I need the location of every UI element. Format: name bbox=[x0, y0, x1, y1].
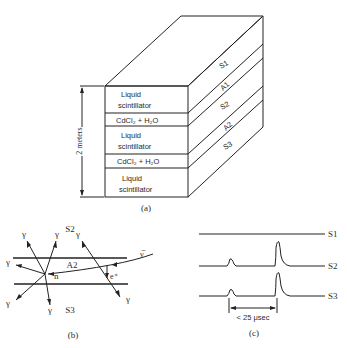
gamma-6: γ bbox=[47, 305, 52, 315]
layer-1-line-1: Liquid bbox=[121, 90, 141, 99]
gamma-1: γ bbox=[21, 229, 26, 239]
gamma-5: γ bbox=[5, 298, 10, 308]
side-label-s3: S3 bbox=[222, 139, 234, 151]
caption-a: (a) bbox=[141, 203, 151, 213]
layer-1-line-2: scintillator bbox=[118, 101, 152, 110]
label-a2: A2 bbox=[67, 260, 78, 270]
label-s2: S2 bbox=[65, 224, 75, 234]
trace-s2 bbox=[199, 242, 325, 266]
side-label-s1: S1 bbox=[218, 58, 230, 70]
trace-label-s2: S2 bbox=[328, 261, 338, 271]
trace-label-s3: S3 bbox=[328, 291, 338, 301]
layer-3-line-2: scintillator bbox=[118, 142, 152, 151]
trace-label-s1: S1 bbox=[328, 229, 338, 239]
label-positron: e⁺ bbox=[110, 272, 118, 281]
top-face bbox=[105, 16, 263, 86]
gamma-2: γ bbox=[54, 229, 59, 239]
antineutrino-track bbox=[48, 254, 153, 274]
label-antineutrino: ν̅ bbox=[140, 250, 147, 259]
layer-5-line-1: Liquid bbox=[122, 174, 142, 183]
interaction-diagram: S2 A2 S3 n e⁺ ν̅ γ γ γ γ γ γ γ bbox=[5, 224, 153, 315]
height-dimension: 2 meters bbox=[75, 86, 104, 197]
layer-2-label: CdCl₂ + H₂O bbox=[116, 116, 158, 125]
gamma-3: γ bbox=[75, 229, 80, 239]
gamma-7: γ bbox=[125, 294, 130, 304]
gamma-4: γ bbox=[5, 257, 10, 267]
layer-3-line-1: Liquid bbox=[121, 131, 141, 140]
height-label: 2 meters bbox=[75, 127, 84, 154]
caption-b: (b) bbox=[68, 330, 79, 340]
layer-4-label: CdCl₂ + H₂O bbox=[117, 157, 159, 166]
label-n: n bbox=[54, 271, 59, 281]
interval-label: < 25 μsec bbox=[237, 313, 270, 322]
caption-c: (c) bbox=[249, 328, 259, 338]
detector-block: Liquid scintillator CdCl₂ + H₂O Liquid s… bbox=[105, 16, 263, 197]
side-label-s2: S2 bbox=[219, 99, 231, 111]
label-s3: S3 bbox=[65, 305, 75, 315]
trace-s3 bbox=[199, 273, 325, 296]
detector-figure: Liquid scintillator CdCl₂ + H₂O Liquid s… bbox=[0, 0, 347, 348]
side-label-a1: A1 bbox=[218, 80, 231, 93]
layer-5-line-2: scintillator bbox=[119, 185, 153, 194]
pulse-traces: S1 S2 S3 < 25 μsec bbox=[199, 229, 338, 322]
